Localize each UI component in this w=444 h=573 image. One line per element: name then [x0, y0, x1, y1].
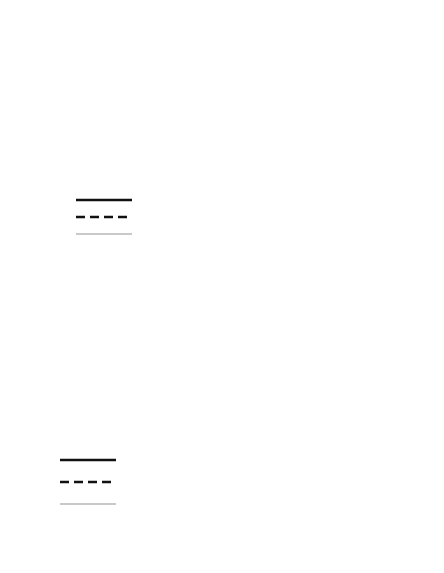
chart-top — [0, 0, 444, 288]
bottom-legend — [60, 460, 116, 504]
top-legend — [76, 200, 132, 234]
chart-bottom-canvas — [0, 288, 444, 573]
chart-bottom — [0, 288, 444, 573]
chart-page — [0, 0, 444, 573]
chart-top-canvas — [0, 0, 444, 288]
